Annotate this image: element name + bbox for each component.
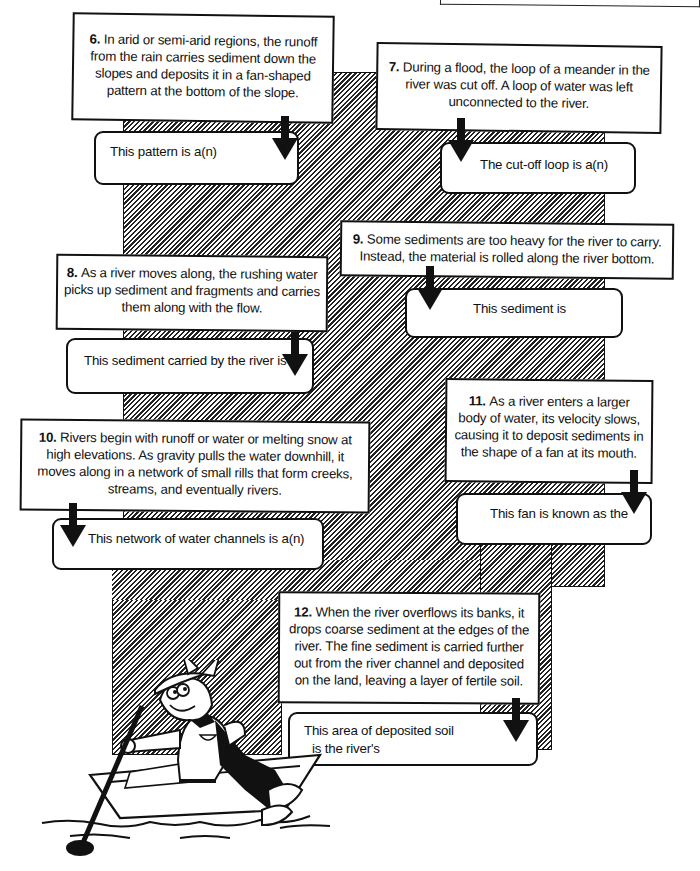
down-arrow-icon [621,470,647,514]
question-prompt: Some sediments are too heavy for the riv… [359,232,661,267]
question-number: 11. [469,393,490,408]
down-arrow-icon [282,332,308,376]
answer-box-8[interactable]: This sediment carried by the river is [66,338,314,394]
question-number: 9. [353,231,367,246]
question-11-box: 11. As a river enters a larger body of w… [445,378,654,484]
question-9-box: 9. Some sediments are too heavy for the … [340,220,675,279]
answer-stem: This sediment is [473,300,566,317]
answer-stem: This pattern is a(n) [110,143,217,160]
cartoon-rower-in-canoe [30,660,350,860]
answer-stem: The cut-off loop is a(n) [480,156,608,173]
question-number: 10. [39,430,61,445]
question-7-box: 7. During a flood, the loop of a meander… [375,42,662,134]
question-number: 6. [89,31,103,46]
down-arrow-icon [503,698,529,742]
answer-stem: This fan is known as the [490,505,628,522]
answer-stem: This network of water channels is a(n) [88,530,304,547]
question-prompt: During a flood, the loop of a meander in… [403,59,650,111]
question-8-box: 8. As a river moves along, the rushing w… [56,254,329,332]
down-arrow-icon [272,116,298,160]
answer-box-6[interactable]: This pattern is a(n) [94,131,299,185]
question-number: 8. [67,265,81,280]
down-arrow-icon [448,118,474,162]
question-number: 7. [389,59,403,74]
answer-box-10[interactable]: This network of water channels is a(n) [52,518,324,570]
question-prompt: Rivers begin with runoff or water or mel… [37,430,352,498]
question-number: 12. [294,604,315,619]
answer-stem: This sediment carried by the river is [84,352,286,369]
question-6-box: 6. In arid or semi-arid regions, the run… [71,12,334,124]
down-arrow-icon [417,266,443,310]
down-arrow-icon [60,503,86,547]
previous-box-edge [440,0,700,7]
question-10-box: 10. Rivers begin with runoff or water or… [20,418,371,513]
question-prompt: In arid or semi-arid regions, the runoff… [90,32,317,101]
question-prompt: As a river moves along, the rushing wate… [64,265,320,316]
